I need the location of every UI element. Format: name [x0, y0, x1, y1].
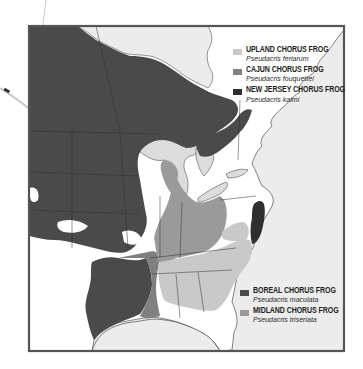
range-map: UPLAND CHORUS FROG Pseudacris feriarum C… [0, 0, 363, 369]
legend-bottom: BOREAL CHORUS FROG Pseudacris maculata M… [240, 287, 353, 327]
legend-swatch-new-jersey [233, 89, 242, 95]
legend-latin-name: Pseudacris fouquettei [246, 75, 325, 83]
legend-swatch-midland [240, 310, 249, 316]
legend-item-upland: UPLAND CHORUS FROG Pseudacris feriarum [233, 46, 361, 63]
legend-item-new-jersey: NEW JERSEY CHORUS FROG Pseudacris kalmi [233, 86, 361, 103]
legend-swatch-cajun [233, 69, 242, 75]
legend-item-boreal: BOREAL CHORUS FROG Pseudacris maculata [240, 287, 353, 304]
legend-top: UPLAND CHORUS FROG Pseudacris feriarum C… [233, 46, 361, 107]
legend-latin-name: Pseudacris triseriata [253, 316, 341, 324]
legend-item-midland: MIDLAND CHORUS FROG Pseudacris triseriat… [240, 307, 353, 324]
legend-latin-name: Pseudacris feriarum [246, 55, 330, 63]
legend-swatch-upland [233, 49, 242, 55]
legend-common-name: MIDLAND CHORUS FROG [253, 307, 339, 315]
legend-common-name: UPLAND CHORUS FROG [246, 46, 329, 54]
legend-latin-name: Pseudacris kalmi [246, 96, 347, 104]
legend-common-name: BOREAL CHORUS FROG [253, 287, 336, 295]
legend-common-name: CAJUN CHORUS FROG [246, 66, 324, 74]
legend-common-name: NEW JERSEY CHORUS FROG [246, 86, 345, 94]
legend-latin-name: Pseudacris maculata [253, 296, 338, 304]
legend-item-cajun: CAJUN CHORUS FROG Pseudacris fouquettei [233, 66, 361, 83]
legend-swatch-boreal [240, 290, 249, 296]
